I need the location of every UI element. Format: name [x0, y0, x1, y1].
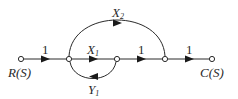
node-2: [66, 56, 71, 61]
node-4: [162, 56, 167, 61]
gain-label-x2: X2: [111, 5, 124, 21]
gain-label: 1: [138, 42, 145, 57]
signal-flow-graph: 1 X1 1 1 X2 Y1 R(S) C(S): [0, 0, 238, 99]
node-r: [18, 56, 23, 61]
node-3: [114, 56, 119, 61]
gain-label-y1: Y1: [88, 82, 99, 98]
branch-x2-arc: [69, 20, 165, 56]
node-label-c: C(S): [200, 65, 224, 80]
gain-label-x1: X1: [86, 42, 99, 58]
gain-label: 1: [42, 42, 49, 57]
gain-label: 1: [186, 42, 193, 57]
node-label-r: R(S): [7, 65, 31, 80]
node-c: [209, 56, 214, 61]
